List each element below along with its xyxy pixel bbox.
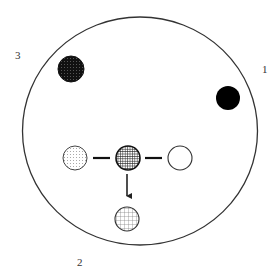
- spot-row-right: [168, 146, 192, 170]
- spot-right: [216, 86, 240, 110]
- spot-bottom: [115, 207, 139, 231]
- spot-top-left: [58, 56, 84, 82]
- region-label-1: 1: [262, 63, 268, 75]
- spot-row-center: [116, 146, 140, 170]
- diagram-canvas: 3 1 2: [0, 0, 280, 278]
- spot-row-left: [63, 146, 87, 170]
- region-label-2: 2: [77, 256, 83, 268]
- region-label-3: 3: [15, 49, 21, 61]
- dish-outline: [23, 17, 258, 245]
